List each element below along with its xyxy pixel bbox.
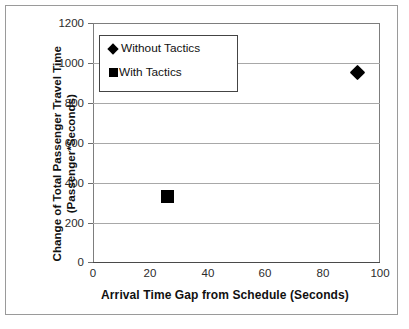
gridline-200 [93,223,380,224]
y-axis-title: Change of Total Passenger Travel Time (P… [50,24,77,284]
y-tick-mark-200 [88,223,93,224]
plot-border-top [93,23,380,24]
y-axis-title-line2: (Passenger*Seconds) [64,24,78,284]
x-tick-label-20: 20 [130,268,170,280]
y-axis-title-line1: Change of Total Passenger Travel Time [50,24,64,284]
x-tick-label-0: 0 [73,268,113,280]
gridline-800 [93,103,380,104]
legend-item-with-tactics: With Tactics [108,67,182,79]
x-axis-title: Arrival Time Gap from Schedule (Seconds) [60,288,390,302]
x-tick-label-80: 80 [303,268,343,280]
y-tick-mark-0 [88,262,93,263]
y-tick-mark-1200 [88,23,93,24]
legend-label-with-tactics: With Tactics [119,67,182,79]
gridline-600 [93,143,380,144]
diamond-marker-icon [107,43,118,54]
x-tick-label-60: 60 [245,268,285,280]
chart-legend: Without Tactics With Tactics [99,35,238,92]
y-tick-mark-400 [88,183,93,184]
y-tick-mark-800 [88,103,93,104]
x-tick-label-100: 100 [360,268,400,280]
gridline-400 [93,183,380,184]
datapoint-with-tactics [161,190,174,203]
y-tick-mark-600 [88,143,93,144]
chart-figure: 1200 1000 800 600 400 200 0 0 20 40 60 8… [0,0,409,329]
square-marker-icon [109,68,118,77]
x-tick-label-40: 40 [188,268,228,280]
y-axis-title-wrapper: Change of Total Passenger Travel Time (P… [22,10,56,270]
y-tick-mark-1000 [88,63,93,64]
x-axis-line [93,262,380,263]
legend-item-without-tactics: Without Tactics [108,43,200,55]
legend-label-without-tactics: Without Tactics [121,43,200,55]
